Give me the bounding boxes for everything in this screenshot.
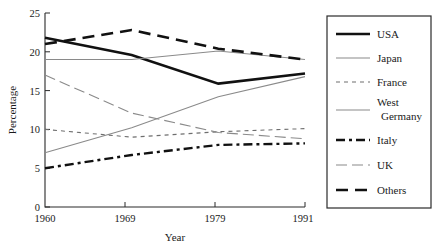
legend-label-west: West bbox=[377, 96, 399, 108]
xtick-label-1979: 1979 bbox=[205, 213, 226, 224]
line-chart: 25 20 15 10 5 0 1960 1969 1979 1991 Year… bbox=[0, 0, 438, 250]
y-axis-title: Percentage bbox=[6, 86, 18, 134]
series-line-west-germany bbox=[45, 51, 305, 60]
legend-label-italy: Italy bbox=[377, 134, 398, 146]
legend-label-france: France bbox=[377, 76, 407, 88]
x-axis-title: Year bbox=[165, 231, 186, 243]
legend-label-japan: Japan bbox=[377, 52, 403, 64]
series-layer bbox=[45, 30, 305, 168]
legend-label-uk: UK bbox=[377, 159, 393, 171]
ytick-label-15: 15 bbox=[30, 86, 41, 97]
ytick-label-10: 10 bbox=[30, 124, 41, 135]
series-line-italy bbox=[45, 143, 305, 168]
legend-label-usa: USA bbox=[377, 28, 399, 40]
ytick-label-5: 5 bbox=[35, 163, 40, 174]
xtick-label-1991: 1991 bbox=[293, 213, 314, 224]
axis-lines bbox=[45, 13, 305, 207]
chart-svg: 25 20 15 10 5 0 1960 1969 1979 1991 Year… bbox=[0, 0, 438, 250]
xtick-label-1960: 1960 bbox=[35, 213, 56, 224]
ytick-label-25: 25 bbox=[30, 8, 41, 19]
legend-label-others: Others bbox=[377, 184, 406, 196]
legend: USA Japan France West Germany Italy bbox=[327, 16, 431, 208]
ytick-label-20: 20 bbox=[30, 47, 41, 58]
series-line-japan bbox=[45, 77, 305, 153]
ytick-label-0: 0 bbox=[35, 202, 40, 213]
series-line-usa bbox=[45, 38, 305, 84]
xtick-label-1969: 1969 bbox=[115, 213, 136, 224]
legend-label-germany: Germany bbox=[381, 110, 422, 122]
series-line-uk bbox=[45, 75, 305, 139]
